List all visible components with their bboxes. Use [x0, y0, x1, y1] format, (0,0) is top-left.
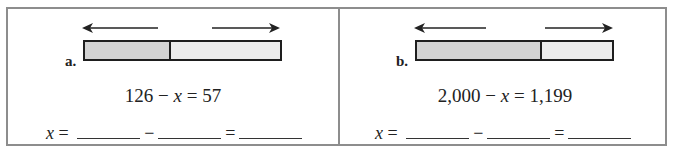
answer-line: x = −= — [46, 122, 306, 144]
answer-blank-1[interactable] — [406, 122, 469, 139]
answer-blank-1[interactable] — [77, 122, 140, 139]
problem-b: b. 2,000 − x = 1,199 x = −= — [340, 9, 670, 144]
arrow-right-icon — [212, 22, 280, 34]
tape-segment-known — [85, 42, 171, 59]
equation-variable: x — [501, 85, 509, 106]
arrow-left-icon — [82, 22, 158, 34]
answer-blank-3[interactable] — [568, 122, 631, 139]
answer-blank-3[interactable] — [239, 122, 302, 139]
answer-blank-2[interactable] — [158, 122, 221, 139]
tape-diagram — [83, 40, 282, 61]
tape-diagram — [415, 40, 614, 61]
problem-label: a. — [65, 53, 76, 70]
equation: 126 − x = 57 — [8, 85, 338, 107]
equation: 2,000 − x = 1,199 — [340, 85, 670, 107]
tape-segment-unknown — [171, 42, 280, 59]
equation-variable: x — [174, 85, 182, 106]
problem-label: b. — [396, 53, 408, 70]
arrow-left-icon — [414, 22, 486, 34]
problem-a: a. 126 − x = 57 x = −= — [8, 9, 338, 144]
arrow-right-icon — [545, 22, 613, 34]
answer-blank-2[interactable] — [487, 122, 550, 139]
answer-line: x = −= — [375, 122, 635, 144]
tape-segment-known — [417, 42, 542, 59]
tape-segment-unknown — [542, 42, 612, 59]
answer-variable: x — [375, 123, 383, 143]
answer-variable: x — [46, 123, 54, 143]
